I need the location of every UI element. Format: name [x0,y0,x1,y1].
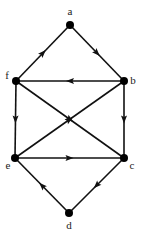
node-label-f: f [5,69,9,81]
directed-graph: abcdef [0,0,141,241]
node-b [120,77,128,85]
node-label-a: a [68,5,73,17]
node-label-c: c [130,159,135,171]
edges-group [12,25,127,213]
node-label-d: d [66,219,72,231]
node-label-e: e [6,159,11,171]
node-c [120,154,128,162]
node-d [65,209,73,217]
node-label-b: b [130,74,136,86]
node-e [11,154,19,162]
node-a [66,21,74,29]
node-f [12,77,20,85]
